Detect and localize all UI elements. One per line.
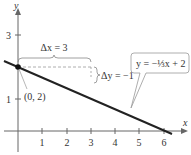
x-tick-1: 1 xyxy=(40,137,45,148)
y-tick-1: 1 xyxy=(6,94,11,105)
delta-y-label: Δy = −1 xyxy=(101,70,134,81)
x-tick-3: 3 xyxy=(89,137,94,148)
delta-x-label: Δx = 3 xyxy=(40,42,67,53)
equation-label: y = −⅓x + 2 xyxy=(136,58,185,69)
line-graph: x y 1 2 3 4 5 6 1 3 Δx = 3 Δy = −1 (0, 2… xyxy=(0,0,191,155)
point-0-2 xyxy=(15,64,21,70)
delta-x-brace xyxy=(18,55,91,62)
y-tick-3: 3 xyxy=(6,30,11,41)
x-tick-6: 6 xyxy=(162,137,167,148)
x-tick-4: 4 xyxy=(113,137,118,148)
x-tick-2: 2 xyxy=(65,137,70,148)
point-label: (0, 2) xyxy=(24,91,46,103)
delta-y-brace xyxy=(94,67,100,83)
x-axis-label: x xyxy=(182,117,188,128)
y-axis-label: y xyxy=(13,0,19,11)
point-leader-line xyxy=(19,69,27,89)
x-tick-5: 5 xyxy=(137,137,142,148)
x-axis-arrow-icon xyxy=(181,128,188,134)
